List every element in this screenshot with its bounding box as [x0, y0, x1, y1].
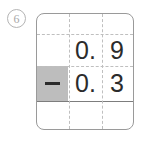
- blank-top-ones-cell: [68, 14, 100, 34]
- answer-operator-cell[interactable]: [37, 101, 68, 130]
- minuend-ones-digit: 0.: [73, 38, 96, 63]
- blank-top-row: [37, 14, 133, 34]
- answer-row[interactable]: [37, 101, 133, 130]
- grid-rule-vertical-right: [102, 14, 103, 129]
- minuend-tenths-cell: 9: [101, 34, 133, 66]
- answer-rule-line: [37, 101, 133, 102]
- subtrahend-tenths-digit: 3: [110, 71, 124, 96]
- subtrahend-operator-cell: [37, 66, 68, 101]
- minuend-row: 0. 9: [37, 34, 133, 66]
- worksheet-problem: 6 0. 9 0. 3: [0, 0, 141, 142]
- subtrahend-ones-cell: 0.: [68, 66, 100, 101]
- grid-rule-horizontal-middle: [37, 66, 133, 67]
- minuend-operator-cell: [37, 34, 68, 66]
- minuend-ones-cell: 0.: [68, 34, 100, 66]
- subtrahend-row: 0. 3: [37, 66, 133, 101]
- blank-top-tenths-cell: [101, 14, 133, 34]
- subtrahend-tenths-cell: 3: [101, 66, 133, 101]
- minus-sign-icon: [45, 82, 60, 85]
- grid-rule-horizontal-top: [37, 34, 133, 35]
- subtrahend-ones-digit: 0.: [73, 71, 96, 96]
- answer-ones-cell[interactable]: [68, 101, 100, 130]
- answer-tenths-cell[interactable]: [101, 101, 133, 130]
- circled-number-marker-icon: 6: [7, 9, 26, 28]
- problem-number-label: 6: [14, 13, 20, 25]
- grid-rule-vertical-left: [69, 14, 70, 129]
- blank-top-operator-cell: [37, 14, 68, 34]
- minuend-tenths-digit: 9: [110, 38, 124, 63]
- vertical-subtraction-grid: 0. 9 0. 3: [36, 13, 134, 130]
